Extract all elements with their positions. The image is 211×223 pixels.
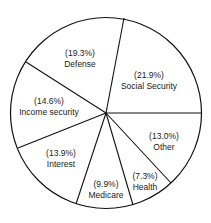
svg-text:Defense: Defense bbox=[64, 59, 96, 69]
svg-text:Other: Other bbox=[153, 142, 174, 152]
svg-text:Social Security: Social Security bbox=[121, 81, 178, 91]
svg-text:(19.3%): (19.3%) bbox=[65, 48, 95, 58]
svg-text:(14.6%): (14.6%) bbox=[34, 96, 64, 106]
svg-text:Income security: Income security bbox=[19, 107, 79, 117]
svg-text:(7.3%): (7.3%) bbox=[132, 171, 157, 181]
svg-text:Interest: Interest bbox=[47, 159, 76, 169]
svg-text:(13.9%): (13.9%) bbox=[46, 148, 76, 158]
slice-other: (13.0%) Other bbox=[149, 131, 179, 152]
slice-medicare: (9.9%) Medicare bbox=[89, 179, 124, 200]
pie-chart: (21.9%) Social Security (19.3%) Defense … bbox=[0, 0, 211, 223]
svg-text:(13.0%): (13.0%) bbox=[149, 131, 179, 141]
svg-text:(9.9%): (9.9%) bbox=[93, 179, 118, 189]
slice-defense: (19.3%) Defense bbox=[64, 48, 96, 69]
svg-text:Medicare: Medicare bbox=[89, 190, 124, 200]
svg-text:Health: Health bbox=[133, 182, 158, 192]
slice-health: (7.3%) Health bbox=[132, 171, 157, 192]
svg-text:(21.9%): (21.9%) bbox=[134, 70, 164, 80]
slice-interest: (13.9%) Interest bbox=[46, 148, 76, 169]
